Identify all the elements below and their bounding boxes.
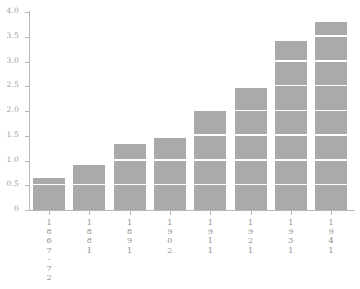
- bar: [275, 41, 307, 210]
- x-axis-tick-mark: [49, 211, 50, 215]
- x-axis-label-char: 9: [167, 227, 172, 236]
- y-axis-tick-label: 1.5: [6, 130, 19, 139]
- bar: [315, 22, 347, 210]
- x-axis-label-char: 1: [208, 246, 213, 255]
- y-axis-tick-mark: [25, 210, 29, 211]
- bar-gridline: [235, 184, 267, 185]
- x-axis-label-char: 1: [87, 246, 92, 255]
- y-axis-tick-label: 4.0: [6, 6, 19, 15]
- x-axis-label-char: 0: [167, 236, 172, 245]
- x-axis-label-char: 8: [127, 227, 132, 236]
- bar-gridline: [154, 159, 186, 160]
- x-axis-label-char: 1: [167, 218, 172, 227]
- bar-gridline: [275, 184, 307, 185]
- x-axis-label-char: 1: [288, 218, 293, 227]
- plot-area: [29, 12, 354, 210]
- bar-gridline: [194, 134, 226, 135]
- x-axis-label-char: 1: [288, 246, 293, 255]
- bar-gridline: [114, 159, 146, 160]
- x-axis-tick-label: 1921: [241, 218, 261, 255]
- y-axis-tick-label: 0.5: [6, 179, 19, 188]
- bar-gridline: [114, 184, 146, 185]
- x-axis-label-char: 8: [46, 227, 51, 236]
- bar-gridline: [194, 184, 226, 185]
- bar-gridline: [33, 184, 65, 185]
- x-axis-label-char: 8: [87, 227, 92, 236]
- x-axis-label-char: 2: [167, 246, 172, 255]
- x-axis-tick-label: 1931: [281, 218, 301, 255]
- bar-gridline: [315, 159, 347, 160]
- x-axis-label-char: 7: [46, 264, 51, 273]
- x-axis-tick-label: 1902: [160, 218, 180, 255]
- x-axis-label-char: 9: [127, 236, 132, 245]
- bar: [114, 144, 146, 210]
- x-axis-label-char: 6: [46, 236, 51, 245]
- bar: [73, 165, 105, 210]
- y-axis-tick-label: 0: [14, 204, 19, 213]
- y-axis-tick-label: 1.0: [6, 155, 19, 164]
- x-axis-tick-label: 1911: [200, 218, 220, 255]
- bar: [235, 88, 267, 210]
- bar-gridline: [235, 110, 267, 111]
- bar-gridline: [275, 159, 307, 160]
- bar-gridline: [315, 60, 347, 61]
- bar-gridline: [194, 110, 226, 111]
- y-axis-tick-label: 2.0: [6, 105, 19, 114]
- x-axis-label-char: 1: [127, 218, 132, 227]
- x-axis-tick-mark: [89, 211, 90, 215]
- bar-gridline: [275, 134, 307, 135]
- bar-gridline: [154, 184, 186, 185]
- x-axis-label-char: 9: [208, 227, 213, 236]
- x-axis-spine: [29, 210, 355, 211]
- x-axis-label-char: 1: [329, 246, 334, 255]
- x-axis-label-char: 1: [87, 218, 92, 227]
- bar-gridline: [275, 60, 307, 61]
- x-axis-tick-mark: [331, 211, 332, 215]
- bar-gridline: [315, 110, 347, 111]
- x-axis-label-char: 1: [127, 246, 132, 255]
- bar: [194, 110, 226, 210]
- bar-gridline: [235, 159, 267, 160]
- x-axis-label-char: 1: [248, 246, 253, 255]
- x-axis-tick-label: 1881: [79, 218, 99, 255]
- bar-gridline: [315, 184, 347, 185]
- x-axis-label-char: 9: [248, 227, 253, 236]
- bar-gridline: [315, 85, 347, 86]
- y-axis-tick-label: 2.5: [6, 80, 19, 89]
- bar-gridline: [315, 35, 347, 36]
- bar: [154, 138, 186, 210]
- x-axis-label-char: 1: [329, 218, 334, 227]
- x-axis-tick-label: 1867-72: [39, 218, 59, 282]
- x-axis-tick-label: 1941: [321, 218, 341, 255]
- x-axis-label-char: -: [48, 255, 51, 264]
- x-axis-label-char: 8: [87, 236, 92, 245]
- x-axis-label-char: 2: [46, 273, 51, 282]
- bar-gridline: [275, 110, 307, 111]
- x-axis-tick-mark: [291, 211, 292, 215]
- x-axis-label-char: 4: [329, 236, 334, 245]
- bar: [33, 178, 65, 210]
- x-axis-tick-mark: [170, 211, 171, 215]
- x-axis-tick-mark: [251, 211, 252, 215]
- x-axis-label-char: 7: [46, 246, 51, 255]
- x-axis-tick-mark: [130, 211, 131, 215]
- x-axis-tick-label: 1891: [120, 218, 140, 255]
- x-axis-label-char: 1: [46, 218, 51, 227]
- bar-chart: 00.51.01.52.02.53.03.54.0 1867-721881189…: [0, 0, 360, 289]
- x-axis-label-char: 9: [288, 227, 293, 236]
- x-axis-label-char: 1: [208, 236, 213, 245]
- x-axis-label-char: 1: [248, 218, 253, 227]
- y-axis-tick-label: 3.0: [6, 56, 19, 65]
- bar-gridline: [194, 159, 226, 160]
- x-axis-label-char: 9: [329, 227, 334, 236]
- bar-gridline: [315, 134, 347, 135]
- x-axis-label-char: 3: [288, 236, 293, 245]
- x-axis-label-char: 2: [248, 236, 253, 245]
- bar-gridline: [235, 134, 267, 135]
- x-axis-label-char: 1: [208, 218, 213, 227]
- x-axis-tick-mark: [210, 211, 211, 215]
- y-axis-tick-label: 3.5: [6, 31, 19, 40]
- bar-gridline: [275, 85, 307, 86]
- bar-gridline: [73, 184, 105, 185]
